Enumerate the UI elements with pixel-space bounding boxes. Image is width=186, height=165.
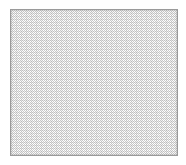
image-canvas: [0, 0, 186, 165]
dither-pattern-fill: [11, 10, 177, 155]
texture-swatch-panel: [10, 9, 178, 156]
